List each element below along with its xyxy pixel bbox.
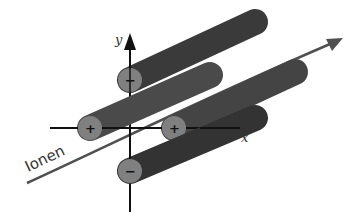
rod-left-cap: +: [78, 116, 102, 140]
positive-sign-icon: +: [169, 121, 180, 136]
rod-bottom-cap: −: [118, 159, 142, 183]
negative-sign-icon: −: [125, 73, 136, 88]
y-axis-label: y: [114, 32, 123, 47]
rod-top-cap: −: [118, 68, 142, 92]
negative-sign-icon: −: [125, 164, 136, 179]
ion-beam-label: Ionen: [22, 142, 68, 176]
positive-sign-icon: +: [85, 121, 96, 136]
quadrupole-diagram: y − x + + − Ionen: [0, 0, 364, 224]
y-axis-arrowhead-icon: [124, 33, 136, 50]
